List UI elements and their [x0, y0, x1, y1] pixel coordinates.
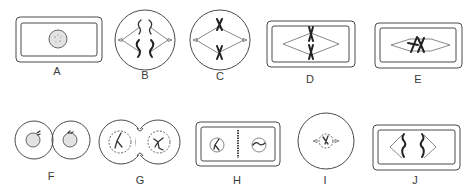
panel-h-cell: [196, 122, 280, 166]
label-f: F: [48, 171, 55, 182]
panel-c-cell: [190, 10, 250, 70]
label-d: D: [306, 74, 314, 85]
label-e: E: [414, 74, 421, 85]
panel-d-cell: [267, 21, 355, 67]
label-a: A: [53, 66, 60, 77]
panel-e-cell: [375, 23, 462, 68]
panel-g-cells: [99, 120, 180, 164]
diagram-canvas: [0, 0, 476, 195]
label-i: I: [323, 175, 326, 186]
label-c: C: [216, 71, 224, 82]
panel-a-cell: [16, 17, 102, 62]
label-g: G: [136, 175, 145, 186]
mitosis-diagram: A B C D E F G H I J: [0, 0, 476, 195]
panel-j-cell: [373, 125, 460, 170]
panel-b-cell: [115, 10, 175, 70]
panel-f-cells: [15, 121, 90, 159]
label-j: J: [412, 175, 418, 186]
label-h: H: [233, 175, 241, 186]
label-b: B: [141, 70, 148, 81]
panel-i-cell: [298, 113, 354, 169]
